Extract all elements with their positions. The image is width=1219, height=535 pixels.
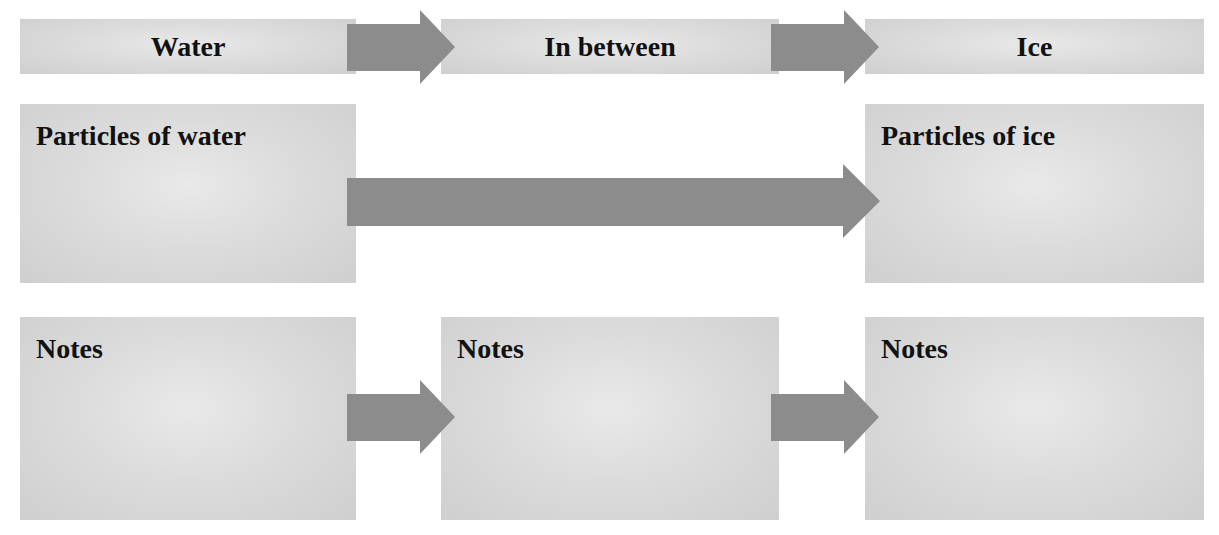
arrow-right-icon	[347, 380, 457, 456]
arrow-right-icon	[771, 10, 881, 86]
panel-title: Notes	[457, 333, 524, 365]
stage-ice-header: Ice	[865, 19, 1204, 74]
notes-panel-ice: Notes	[865, 317, 1204, 520]
arrow-right-icon	[771, 380, 881, 456]
stage-label: In between	[544, 31, 675, 63]
panel-title: Notes	[36, 333, 103, 365]
panel-title: Particles of water	[36, 120, 246, 152]
notes-panel-water: Notes	[20, 317, 356, 520]
particles-of-ice-panel: Particles of ice	[865, 104, 1204, 283]
panel-title: Particles of ice	[881, 120, 1055, 152]
stage-water-header: Water	[20, 19, 356, 74]
arrow-right-icon	[347, 10, 457, 86]
stage-label: Water	[151, 31, 226, 63]
particles-of-water-panel: Particles of water	[20, 104, 356, 283]
long-arrow-right-icon	[347, 164, 882, 240]
stage-label: Ice	[1017, 31, 1053, 63]
panel-title: Notes	[881, 333, 948, 365]
notes-panel-in-between: Notes	[441, 317, 779, 520]
stage-in-between-header: In between	[441, 19, 779, 74]
